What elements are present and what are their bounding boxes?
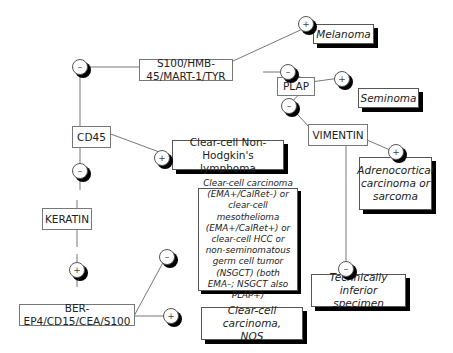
result-label: Clear-cell carcinoma, NOS <box>202 304 302 343</box>
marker-cd45: CD45 <box>72 126 111 148</box>
marker-s100-hmb45-mart1-tyr: S100/HMB-45/MART-1/TYR <box>139 59 233 81</box>
marker-label: VIMENTIN <box>312 129 363 142</box>
marker-label: BER-EP4/CD15/CEA/S100 <box>20 302 134 328</box>
marker-plap: PLAP <box>277 77 315 96</box>
marker-label: CD45 <box>77 131 106 144</box>
result-melanoma: Melanoma <box>313 24 374 44</box>
positive-node-seminoma: + <box>334 71 350 87</box>
result-label: Clear-cell Non-Hodgkin's lymphoma <box>173 136 283 175</box>
marker-label: PLAP <box>283 80 309 93</box>
result-clear-cell-nos: Clear-cell carcinoma, NOS <box>201 307 303 340</box>
positive-node-melanoma: + <box>298 16 314 32</box>
marker-berep4-cd15-cea-s100: BER-EP4/CD15/CEA/S100 <box>19 304 135 326</box>
result-technically-inferior: Technically inferior specimen <box>311 274 406 307</box>
positive-node-adrenocortical: + <box>388 144 404 160</box>
marker-label: KERATIN <box>45 213 89 226</box>
negative-node-keratin: – <box>72 163 88 179</box>
marker-label: S100/HMB-45/MART-1/TYR <box>140 57 232 83</box>
result-clear-cell-group: Clear-cell carcinoma (EMA+/CalRet–) or c… <box>198 188 298 291</box>
positive-node-berep4: + <box>69 262 85 278</box>
result-adrenocortical: Adrenocortical carcinoma or sarcoma <box>359 157 432 210</box>
result-seminoma: Seminoma <box>358 88 419 108</box>
negative-node-vimentin: – <box>281 98 297 114</box>
result-label: Technically inferior specimen <box>312 271 405 310</box>
marker-keratin: KERATIN <box>42 208 92 230</box>
result-label: Adrenocortical carcinoma or sarcoma <box>351 164 439 203</box>
result-label: Melanoma <box>316 28 371 41</box>
negative-node-plap: – <box>280 64 296 80</box>
negative-node-s100: – <box>72 59 88 75</box>
result-label: Clear-cell carcinoma (EMA+/CalRet–) or c… <box>199 178 297 301</box>
negative-node-technically-inferior: – <box>338 261 354 277</box>
positive-node-lymphoma: + <box>154 150 170 166</box>
negative-node-clear-cell-group: – <box>159 249 175 265</box>
result-label: Seminoma <box>360 92 416 105</box>
positive-node-clear-cell-nos: + <box>163 308 179 324</box>
marker-vimentin: VIMENTIN <box>308 124 368 146</box>
result-lymphoma: Clear-cell Non-Hodgkin's lymphoma <box>172 140 284 170</box>
